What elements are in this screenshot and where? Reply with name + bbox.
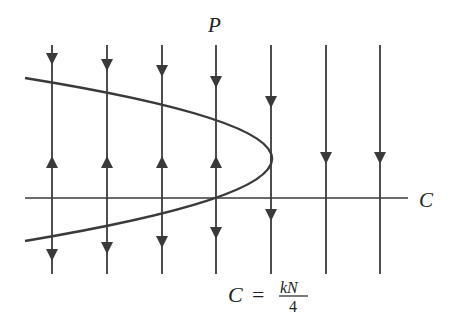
- arrow-down-icon: [210, 227, 222, 239]
- arrow-down-icon: [156, 236, 168, 248]
- formula-equals: =: [252, 282, 264, 307]
- arrow-down-icon: [101, 59, 113, 71]
- arrow-down-icon: [46, 53, 58, 65]
- p-axis-label: P: [207, 13, 221, 37]
- c-axis-label: C: [419, 188, 434, 212]
- arrow-down-icon: [46, 249, 58, 261]
- formula-numerator: kN: [280, 279, 299, 296]
- direction-arrows: [46, 53, 386, 261]
- parabola-curve: [25, 78, 272, 241]
- arrow-up-icon: [210, 156, 222, 168]
- threshold-formula: C = kN 4: [228, 279, 308, 315]
- arrow-up-icon: [156, 156, 168, 168]
- arrow-down-icon: [210, 76, 222, 88]
- arrow-down-icon: [101, 242, 113, 254]
- arrow-down-icon: [156, 65, 168, 77]
- arrow-down-icon: [320, 152, 332, 164]
- formula-lhs: C: [228, 282, 243, 307]
- arrow-down-icon: [265, 96, 277, 108]
- arrow-up-icon: [101, 156, 113, 168]
- arrow-up-icon: [46, 156, 58, 168]
- arrow-down-icon: [374, 152, 386, 164]
- arrow-down-icon: [265, 209, 277, 221]
- phase-diagram: P C C = kN 4: [0, 0, 449, 321]
- formula-denominator: 4: [289, 298, 297, 315]
